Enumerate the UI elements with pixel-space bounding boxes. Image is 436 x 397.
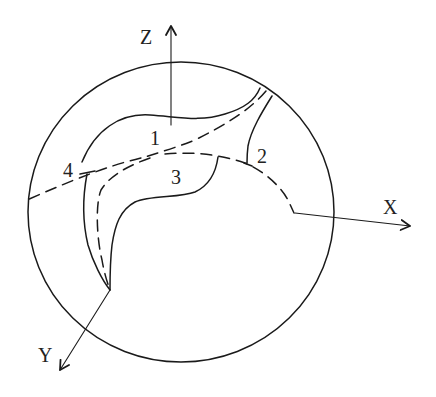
region-2-label: 2	[257, 146, 267, 166]
sphere-outline	[28, 62, 334, 362]
x-axis-label: X	[383, 197, 397, 217]
spike-outer-boundary	[84, 174, 110, 290]
y-axis	[60, 290, 110, 370]
upper-dashed-curve	[27, 91, 266, 200]
inner-dashed-curve	[97, 158, 150, 290]
sphere-diagram	[0, 0, 436, 397]
z-axis-label: Z	[140, 27, 152, 47]
region-4-label: 4	[63, 160, 73, 180]
equator-dashed	[165, 153, 294, 213]
region-3-label: 3	[171, 167, 181, 187]
y-axis-label: Y	[38, 345, 52, 365]
region-1-label: 1	[150, 128, 160, 148]
region-3-boundary	[110, 157, 218, 290]
